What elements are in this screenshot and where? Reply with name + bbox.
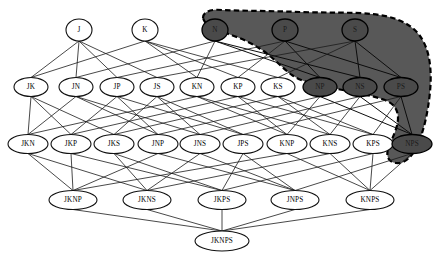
lattice-node-jn[interactable]: JN (59, 78, 93, 97)
lattice-edge (145, 41, 197, 78)
node-label: N (212, 26, 218, 34)
lattice-node-jkps[interactable]: JKPS (198, 191, 246, 210)
lattice-node-jkns[interactable]: JKNS (123, 191, 171, 210)
lattice-diagram: JKNPSJKJNJPJSKNKPKSNPNSPSJKNJKPJKSJNPJNS… (0, 0, 437, 257)
lattice-node-jkp[interactable]: JKP (51, 135, 91, 154)
lattice-node-kn[interactable]: KN (180, 78, 214, 97)
lattice-edge (147, 154, 330, 191)
node-label: NS (355, 83, 365, 91)
lattice-edge (28, 154, 73, 191)
node-label: JP (113, 83, 120, 91)
lattice-node-jkn[interactable]: JKN (8, 135, 48, 154)
lattice-edge (157, 97, 200, 135)
lattice-edge (28, 97, 197, 135)
node-label: JKPS (214, 196, 231, 204)
node-label: KNS (323, 140, 338, 148)
lattice-node-s[interactable]: S (342, 19, 368, 41)
lattice-edge (287, 154, 370, 191)
node-label: JKNP (64, 196, 82, 204)
node-label: KPS (366, 140, 380, 148)
node-label: KNPS (361, 196, 380, 204)
lattice-node-ks[interactable]: KS (261, 78, 295, 97)
lattice-edge (147, 210, 222, 232)
lattice-edge (117, 41, 285, 78)
lattice-node-jks[interactable]: JKS (94, 135, 134, 154)
node-label: K (142, 26, 148, 34)
node-label: JPS (237, 140, 248, 148)
lattice-node-jk[interactable]: JK (14, 78, 48, 97)
lattice-node-p[interactable]: P (272, 19, 298, 41)
lattice-node-jp[interactable]: JP (100, 78, 134, 97)
node-label: PS (397, 83, 405, 91)
node-label: JNP (152, 140, 164, 148)
lattice-edge (31, 97, 71, 135)
lattice-node-knp[interactable]: KNP (267, 135, 307, 154)
node-label: KS (273, 83, 283, 91)
lattice-edge (238, 97, 373, 135)
node-label: JKN (21, 140, 35, 148)
lattice-edge (158, 97, 320, 135)
lattice-edge (31, 97, 114, 135)
node-label: JNPS (287, 196, 304, 204)
node-label: JKS (108, 140, 120, 148)
lattice-node-kns[interactable]: KNS (310, 135, 350, 154)
lattice-edge (197, 97, 287, 135)
node-label: JS (153, 83, 160, 91)
node-label: JKNS (138, 196, 156, 204)
lattice-node-n[interactable]: N (202, 19, 228, 41)
lattice-node-kp[interactable]: KP (221, 78, 255, 97)
node-label: JN (72, 83, 81, 91)
node-label: JKNPS (211, 237, 233, 245)
lattice-edge (71, 154, 73, 191)
node-label: P (283, 26, 287, 34)
node-label: JNS (194, 140, 206, 148)
lattice-node-js[interactable]: JS (140, 78, 174, 97)
lattice-edge (31, 41, 79, 78)
lattice-node-j[interactable]: J (66, 19, 92, 41)
lattice-edge (71, 97, 238, 135)
lattice-node-kps[interactable]: KPS (353, 135, 393, 154)
lattice-edge (76, 41, 79, 78)
lattice-node-jns[interactable]: JNS (180, 135, 220, 154)
lattice-edge (31, 41, 145, 78)
lattice-edge (295, 154, 412, 191)
node-label: NPS (405, 140, 419, 148)
lattice-node-knps[interactable]: KNPS (346, 191, 394, 210)
lattice-node-nps[interactable]: NPS (392, 135, 432, 154)
lattice-node-jknp[interactable]: JKNP (49, 191, 97, 210)
lattice-edge (28, 97, 31, 135)
lattice-node-jnps[interactable]: JNPS (271, 191, 319, 210)
node-label: NP (315, 83, 325, 91)
lattice-node-jknps[interactable]: JKNPS (195, 231, 249, 251)
node-label: J (78, 26, 81, 34)
lattice-edge (243, 154, 295, 191)
lattice-node-jps[interactable]: JPS (223, 135, 263, 154)
lattice-node-jnp[interactable]: JNP (138, 135, 178, 154)
lattice-node-k[interactable]: K (132, 19, 158, 41)
lattice-node-np[interactable]: NP (303, 78, 337, 97)
lattice-edge (222, 210, 370, 232)
lattice-canvas: JKNPSJKJNJPJSKNKPKSNPNSPSJKNJKPJKSJNPJNS… (0, 0, 437, 257)
lattice-edge (145, 41, 238, 78)
lattice-edge (197, 97, 330, 135)
node-label: JKP (65, 140, 77, 148)
node-label: KNP (280, 140, 295, 148)
lattice-edge (370, 154, 373, 191)
lattice-node-ns[interactable]: NS (343, 78, 377, 97)
node-label: JK (27, 83, 36, 91)
lattice-edge (200, 154, 295, 191)
lattice-edge (222, 210, 295, 232)
lattice-node-ps[interactable]: PS (384, 78, 418, 97)
lattice-edge (71, 154, 222, 191)
node-label: KN (192, 83, 203, 91)
lattice-edge (73, 210, 222, 232)
lattice-edge (76, 97, 158, 135)
node-label: KP (233, 83, 243, 91)
node-label: S (353, 26, 357, 34)
